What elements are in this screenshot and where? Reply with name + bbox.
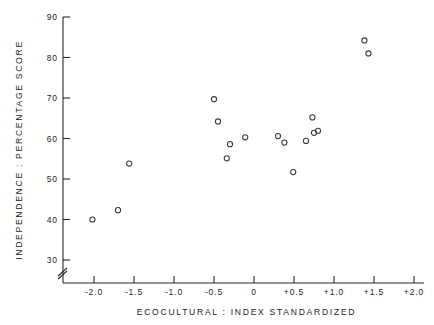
x-tick-label: -2.0 xyxy=(85,287,103,297)
y-axis: 30405060708090 xyxy=(47,12,70,283)
x-tick-label: +1.0 xyxy=(324,287,344,297)
x-tick-label: +2.0 xyxy=(404,287,424,297)
scatter-plot-figure: 30405060708090 -2.0-1.5-1.0-0.50+0.5+1.0… xyxy=(0,0,434,325)
plot-canvas: 30405060708090 -2.0-1.5-1.0-0.50+0.5+1.0… xyxy=(0,0,434,325)
data-point xyxy=(243,135,248,140)
x-axis-title: ECOCULTURAL : INDEX STANDARDIZED xyxy=(137,307,356,317)
y-tick-label: 60 xyxy=(47,134,58,144)
x-tick-label: +0.5 xyxy=(284,287,304,297)
data-point xyxy=(282,140,287,145)
y-axis-title: INDEPENDENCE : PERCENTAGE SCORE xyxy=(14,40,24,260)
data-point xyxy=(215,119,220,124)
y-tick-label: 80 xyxy=(47,53,58,63)
data-point xyxy=(291,170,296,175)
data-point xyxy=(115,208,120,213)
data-point xyxy=(362,38,367,43)
y-tick-label: 50 xyxy=(47,174,58,184)
x-tick-label: +1.5 xyxy=(364,287,384,297)
data-point xyxy=(303,138,308,143)
x-axis: -2.0-1.5-1.0-0.50+0.5+1.0+1.5+2.0 xyxy=(63,276,424,297)
y-tick-label: 70 xyxy=(47,93,58,103)
x-tick-label: 0 xyxy=(251,287,257,297)
data-point xyxy=(366,51,371,56)
data-point xyxy=(310,115,315,120)
data-point xyxy=(127,161,132,166)
data-points xyxy=(90,38,371,222)
data-point xyxy=(224,156,229,161)
y-tick-label: 40 xyxy=(47,215,58,225)
y-tick-label: 90 xyxy=(47,12,58,22)
data-point xyxy=(275,133,280,138)
data-point xyxy=(90,217,95,222)
data-point xyxy=(227,142,232,147)
x-tick-label: -1.5 xyxy=(125,287,143,297)
y-tick-label: 30 xyxy=(47,255,58,265)
x-tick-label: -0.5 xyxy=(205,287,223,297)
data-point xyxy=(211,97,216,102)
x-tick-label: -1.0 xyxy=(165,287,183,297)
